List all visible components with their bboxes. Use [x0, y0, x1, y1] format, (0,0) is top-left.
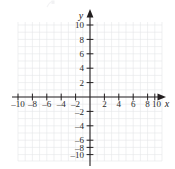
- y-tick-label-8: 8: [80, 35, 85, 45]
- y-tick-label-neg10: –10: [70, 150, 85, 160]
- y-tick-label-neg4: –4: [74, 121, 85, 131]
- x-tick-label-neg8: –8: [27, 99, 38, 109]
- y-tick-label-2: 2: [80, 78, 85, 88]
- y-tick-label-neg2: –2: [74, 107, 84, 117]
- y-tick-label-6: 6: [80, 49, 85, 59]
- x-tick-label-2: 2: [102, 99, 107, 109]
- y-tick-label-10: 10: [75, 20, 85, 30]
- x-axis-label: x: [164, 98, 170, 109]
- x-tick-label-8: 8: [145, 99, 150, 109]
- coordinate-plane-figure: –10 –8 –6 –4 –2 2 4 6 8 10 10 8 6 4 2 –2…: [0, 0, 175, 169]
- x-tick-label-neg6: –6: [41, 99, 52, 109]
- y-tick-label-4: 4: [80, 63, 85, 73]
- x-tick-label-6: 6: [131, 99, 136, 109]
- x-tick-label-neg10: –10: [10, 99, 25, 109]
- x-tick-label-neg4: –4: [56, 99, 67, 109]
- x-tick-label-10: 10: [152, 99, 162, 109]
- y-axis-label: y: [78, 10, 84, 21]
- x-tick-label-4: 4: [117, 99, 122, 109]
